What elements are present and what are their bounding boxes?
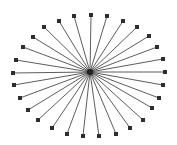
leaf-node bbox=[135, 25, 139, 29]
leaf-node bbox=[11, 71, 15, 75]
leaf-node bbox=[105, 14, 109, 18]
star-graph-diagram bbox=[0, 0, 177, 145]
leaf-node bbox=[161, 57, 165, 61]
leaf-node bbox=[14, 58, 18, 62]
leaf-node bbox=[141, 118, 145, 122]
leaf-node bbox=[97, 134, 101, 138]
leaf-node bbox=[128, 126, 132, 130]
hub-node bbox=[87, 69, 93, 75]
leaf-node bbox=[147, 34, 151, 38]
leaf-node bbox=[161, 83, 165, 87]
leaf-node bbox=[121, 19, 125, 23]
leaf-node bbox=[26, 108, 30, 112]
leaf-node bbox=[18, 96, 22, 100]
leaf-node bbox=[157, 96, 161, 100]
leaf-node bbox=[31, 35, 35, 39]
leaf-node bbox=[65, 132, 69, 136]
leaf-node bbox=[42, 25, 46, 29]
leaf-node bbox=[150, 106, 154, 110]
leaf-node bbox=[50, 126, 54, 130]
leaf-node bbox=[21, 45, 25, 49]
leaf-node bbox=[89, 13, 93, 17]
leaf-node bbox=[81, 134, 85, 138]
leaf-node bbox=[72, 14, 76, 18]
leaf-node bbox=[36, 118, 40, 122]
leaf-node bbox=[155, 45, 159, 49]
leaf-node bbox=[163, 70, 167, 74]
leaf-node bbox=[57, 19, 61, 23]
leaf-node bbox=[12, 83, 16, 87]
leaf-node bbox=[114, 132, 118, 136]
